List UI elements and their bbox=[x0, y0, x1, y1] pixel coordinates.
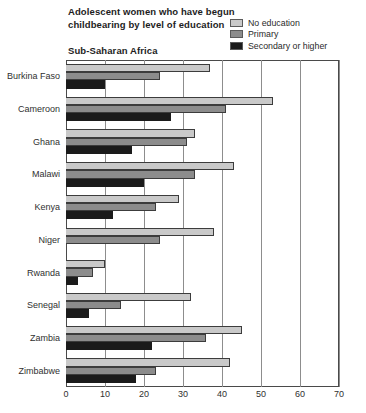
legend-swatch-icon bbox=[230, 42, 243, 50]
legend-item-label: Primary bbox=[248, 29, 278, 39]
bar-groups bbox=[66, 60, 339, 387]
x-axis-tick-label: 40 bbox=[217, 389, 227, 399]
bar-group bbox=[66, 289, 339, 322]
bar bbox=[66, 203, 156, 211]
bar bbox=[66, 293, 191, 301]
y-axis-label: Burkina Faso bbox=[7, 71, 60, 81]
y-axis-category-labels: Burkina FasoCameroonGhanaMalawiKenyaNige… bbox=[0, 60, 63, 387]
x-axis-tick-label: 70 bbox=[334, 389, 344, 399]
y-axis-label: Ghana bbox=[33, 137, 60, 147]
bar bbox=[66, 301, 121, 309]
bar bbox=[66, 162, 234, 170]
bar bbox=[66, 309, 89, 317]
bar bbox=[66, 260, 105, 268]
bar-group bbox=[66, 354, 339, 387]
bar bbox=[66, 105, 226, 113]
y-axis-label: Zambia bbox=[30, 333, 60, 343]
bar bbox=[66, 228, 214, 236]
x-axis-tick-label: 20 bbox=[139, 389, 149, 399]
bar bbox=[66, 146, 132, 154]
bar-group bbox=[66, 191, 339, 224]
bar bbox=[66, 138, 187, 146]
bar bbox=[66, 236, 160, 244]
bar-group bbox=[66, 224, 339, 257]
y-axis-label: Zimbabwe bbox=[18, 366, 60, 376]
y-axis-label: Cameroon bbox=[18, 104, 60, 114]
x-axis-tick-label: 50 bbox=[256, 389, 266, 399]
legend-swatch-icon bbox=[230, 30, 243, 38]
bar-group bbox=[66, 158, 339, 191]
legend-item-label: Secondary or higher bbox=[248, 41, 327, 51]
bar bbox=[66, 211, 113, 219]
bar bbox=[66, 170, 195, 178]
x-axis-tick-label: 30 bbox=[178, 389, 188, 399]
x-axis-tick-label: 0 bbox=[63, 389, 68, 399]
plot-area bbox=[66, 60, 339, 387]
bar bbox=[66, 342, 152, 350]
bar-group bbox=[66, 125, 339, 158]
y-axis-label: Senegal bbox=[27, 300, 60, 310]
legend-item: Primary bbox=[230, 29, 360, 41]
legend-item: No education bbox=[230, 17, 360, 29]
legend-item: Secondary or higher bbox=[230, 40, 360, 52]
chart-title-line-1: Adolescent women who have begun bbox=[68, 6, 248, 19]
chart-subtitle-region: Sub-Saharan Africa bbox=[68, 45, 158, 56]
bar bbox=[66, 358, 230, 366]
bar bbox=[66, 277, 78, 285]
bar-group bbox=[66, 256, 339, 289]
bar bbox=[66, 326, 242, 334]
y-axis-label: Malawi bbox=[32, 169, 60, 179]
y-axis-label: Kenya bbox=[34, 202, 60, 212]
grid-line bbox=[339, 60, 340, 387]
chart-page: Adolescent women who have begun childbea… bbox=[0, 0, 366, 413]
bar bbox=[66, 268, 93, 276]
x-axis-tick-label: 60 bbox=[295, 389, 305, 399]
bar-group bbox=[66, 322, 339, 355]
bar bbox=[66, 334, 206, 342]
bar bbox=[66, 113, 171, 121]
bar bbox=[66, 195, 179, 203]
legend-swatch-icon bbox=[230, 19, 243, 27]
chart-legend: No educationPrimarySecondary or higher bbox=[230, 17, 360, 52]
chart-title: Adolescent women who have begun childbea… bbox=[68, 6, 248, 31]
y-axis-label: Niger bbox=[38, 235, 60, 245]
bar bbox=[66, 129, 195, 137]
x-axis-tick-label: 10 bbox=[100, 389, 110, 399]
bar bbox=[66, 64, 210, 72]
bar-group bbox=[66, 93, 339, 126]
x-axis-tick-labels: 010203040506070 bbox=[0, 389, 366, 407]
chart-title-line-2: childbearing by level of education bbox=[68, 19, 248, 32]
bar bbox=[66, 80, 105, 88]
bar bbox=[66, 179, 144, 187]
y-axis-label: Rwanda bbox=[27, 268, 60, 278]
legend-item-label: No education bbox=[248, 18, 300, 28]
bar bbox=[66, 72, 160, 80]
bar-group bbox=[66, 60, 339, 93]
bar bbox=[66, 97, 273, 105]
bar bbox=[66, 367, 156, 375]
bar bbox=[66, 375, 136, 383]
